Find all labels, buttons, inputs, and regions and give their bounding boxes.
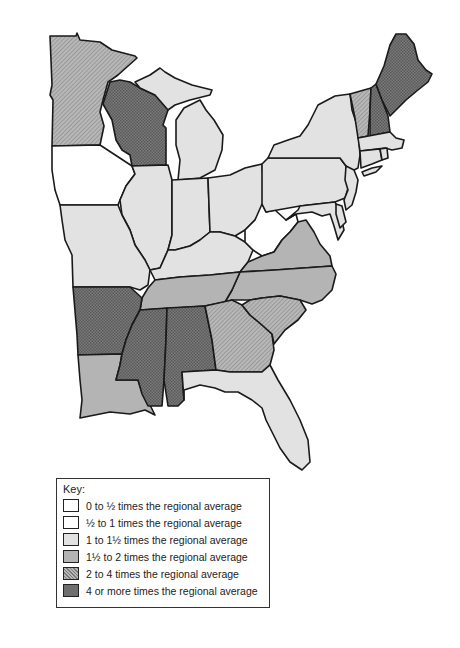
legend-item: 1 to 1½ times the regional average bbox=[63, 531, 263, 548]
legend-swatch-1-to-1-half bbox=[63, 533, 79, 546]
state-new-york-long-island bbox=[362, 166, 382, 176]
legend-title: Key: bbox=[63, 483, 263, 495]
state-rhode-island bbox=[380, 148, 388, 160]
legend-swatch-4-or-more bbox=[63, 584, 79, 597]
legend-item: 2 to 4 times the regional average bbox=[63, 565, 263, 582]
legend: Key: 0 to ½ times the regional average ½… bbox=[56, 478, 270, 608]
legend-label: 4 or more times the regional average bbox=[86, 585, 258, 597]
legend-swatch-half-to-1 bbox=[63, 516, 79, 529]
legend-label: 2 to 4 times the regional average bbox=[86, 568, 239, 580]
legend-swatch-2-to-4 bbox=[63, 567, 79, 580]
state-michigan-lower bbox=[176, 100, 223, 180]
legend-label: 0 to ½ times the regional average bbox=[86, 500, 242, 512]
state-maine bbox=[376, 34, 432, 116]
legend-item: 0 to ½ times the regional average bbox=[63, 497, 263, 514]
state-connecticut bbox=[360, 149, 382, 168]
legend-swatch-0-to-half bbox=[63, 499, 79, 512]
legend-swatch-1-half-to-2 bbox=[63, 550, 79, 563]
legend-label: 1 to 1½ times the regional average bbox=[86, 534, 248, 546]
legend-item: 1½ to 2 times the regional average bbox=[63, 548, 263, 565]
legend-item: ½ to 1 times the regional average bbox=[63, 514, 263, 531]
legend-label: ½ to 1 times the regional average bbox=[86, 517, 242, 529]
state-florida bbox=[182, 365, 310, 470]
legend-label: 1½ to 2 times the regional average bbox=[86, 551, 248, 563]
legend-item: 4 or more times the regional average bbox=[63, 582, 263, 599]
